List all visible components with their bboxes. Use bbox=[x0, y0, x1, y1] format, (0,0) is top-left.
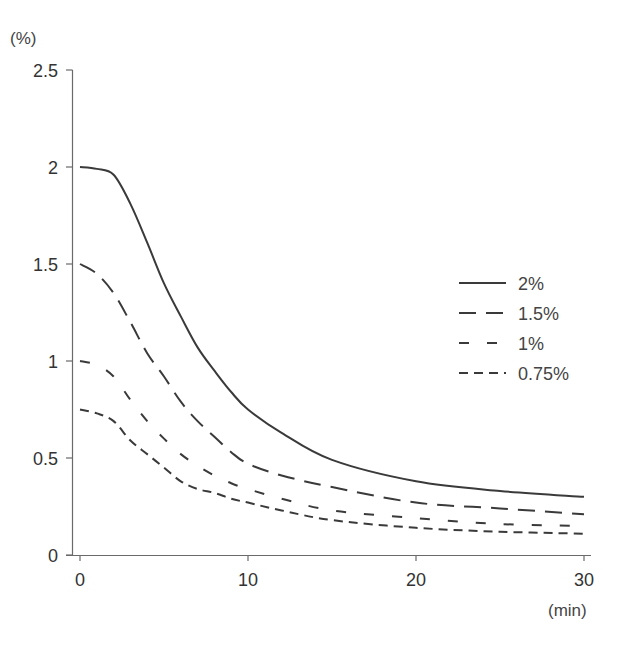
y-tick-label: 2.5 bbox=[33, 61, 58, 81]
x-tick-label: 0 bbox=[75, 570, 85, 590]
legend: 2% 1.5% 1% 0.75% bbox=[459, 274, 569, 384]
legend-label: 2% bbox=[518, 274, 544, 294]
x-tick-label: 10 bbox=[238, 570, 258, 590]
legend-item-1pct: 1% bbox=[459, 334, 544, 354]
y-axis-unit: (%) bbox=[10, 29, 36, 48]
legend-item-1-5pct: 1.5% bbox=[459, 304, 559, 324]
y-tick-label: 1.5 bbox=[33, 255, 58, 275]
y-axis-ticks: 00.511.522.5 bbox=[33, 61, 73, 566]
y-tick-label: 1 bbox=[48, 352, 58, 372]
series-line-2pct bbox=[80, 167, 584, 497]
series-line-0-75pct bbox=[80, 410, 584, 534]
series-line-1-5pct bbox=[80, 264, 584, 514]
x-tick-label: 20 bbox=[406, 570, 426, 590]
legend-item-2pct: 2% bbox=[459, 274, 544, 294]
series-line-1pct bbox=[80, 361, 584, 526]
y-tick-label: 2 bbox=[48, 158, 58, 178]
series-layer bbox=[80, 167, 584, 534]
x-tick-label: 30 bbox=[574, 570, 594, 590]
legend-label: 1% bbox=[518, 334, 544, 354]
y-tick-label: 0 bbox=[48, 546, 58, 566]
line-chart: (%) (min) 00.511.522.5 0102030 2% 1.5% 1… bbox=[0, 0, 618, 647]
legend-label: 1.5% bbox=[518, 304, 559, 324]
legend-item-0-75pct: 0.75% bbox=[459, 364, 569, 384]
legend-label: 0.75% bbox=[518, 364, 569, 384]
x-axis-ticks: 0102030 bbox=[75, 556, 594, 591]
y-tick-label: 0.5 bbox=[33, 449, 58, 469]
x-axis-unit: (min) bbox=[548, 601, 587, 620]
